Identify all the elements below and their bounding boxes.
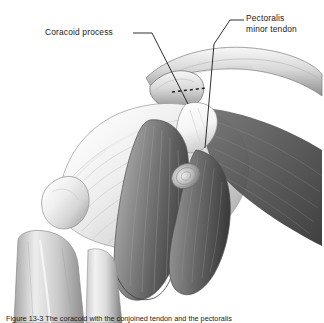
anatomy-figure: Coracoid process Pectoralis minor tendon… (0, 0, 324, 323)
label-pectoralis-minor-tendon: Pectoralis minor tendon (246, 13, 297, 34)
anatomy-illustration (0, 0, 324, 323)
figure-caption: Figure 13-3 The coracoid with the conjoi… (6, 314, 322, 323)
label-coracoid-process: Coracoid process (45, 27, 113, 38)
label-pectoralis-line-1: Pectoralis (246, 13, 297, 24)
label-pectoralis-line-2: minor tendon (246, 24, 297, 35)
label-coracoid-line-1: Coracoid process (45, 27, 113, 37)
